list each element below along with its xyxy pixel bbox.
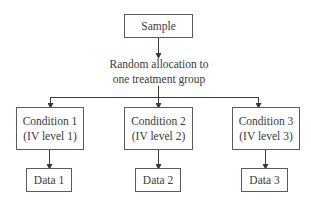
- condition-1-subtitle: (IV level 1): [23, 129, 76, 144]
- condition-2-box: Condition 2 (IV level 2): [124, 107, 193, 150]
- allocation-line-2: one treatment group: [80, 72, 238, 87]
- condition-3-subtitle: (IV level 3): [239, 129, 292, 144]
- allocation-line-1: Random allocation to: [80, 57, 238, 72]
- data-1-box: Data 1: [26, 168, 72, 192]
- data-3-label: Data 3: [249, 173, 279, 188]
- condition-1-box: Condition 1 (IV level 1): [16, 107, 84, 150]
- condition-3-title: Condition 3: [239, 114, 294, 129]
- data-3-box: Data 3: [241, 168, 288, 192]
- data-2-box: Data 2: [135, 168, 181, 192]
- data-1-label: Data 1: [34, 173, 64, 188]
- allocation-label: Random allocation to one treatment group: [80, 57, 238, 87]
- sample-box: Sample: [124, 14, 193, 38]
- condition-1-title: Condition 1: [23, 114, 78, 129]
- data-2-label: Data 2: [143, 173, 173, 188]
- condition-2-subtitle: (IV level 2): [132, 129, 185, 144]
- condition-2-title: Condition 2: [131, 114, 186, 129]
- sample-label: Sample: [141, 19, 176, 34]
- condition-3-box: Condition 3 (IV level 3): [232, 107, 300, 150]
